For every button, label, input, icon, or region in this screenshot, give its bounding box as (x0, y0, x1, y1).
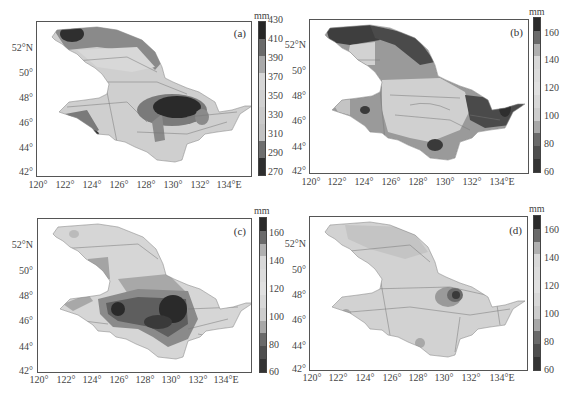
x-tick: 122° (57, 375, 76, 385)
y-tick: 42° (276, 166, 306, 176)
cbar-tick: 60 (544, 167, 554, 177)
cbar-tick: 140 (544, 253, 559, 263)
y-tick: 46° (276, 116, 306, 126)
y-tick: 48° (3, 93, 33, 103)
map-d (310, 217, 528, 371)
x-tick: 126° (110, 375, 129, 385)
y-tick: 48° (276, 290, 306, 300)
colorbar-c (259, 217, 267, 373)
x-tick: 124° (356, 373, 375, 383)
x-tick: 130° (436, 177, 455, 187)
x-tick: 134°E (213, 375, 238, 385)
x-tick: 124° (355, 177, 374, 187)
map-frame-c: (c) (37, 218, 252, 373)
panel-label: (d) (509, 224, 522, 236)
x-tick: 128° (409, 177, 428, 187)
x-tick: 120° (302, 177, 321, 187)
cbar-tick: 120 (544, 83, 559, 93)
y-tick: 48° (3, 291, 33, 301)
x-tick: 134°E (489, 177, 514, 187)
x-tick: 130° (164, 180, 183, 190)
cbar-tick: 160 (269, 228, 284, 238)
x-tick: 132° (462, 373, 481, 383)
y-tick: 48° (276, 91, 306, 101)
cbar-tick: 100 (544, 309, 559, 319)
x-tick: 130° (435, 373, 454, 383)
x-tick: 126° (382, 177, 401, 187)
y-tick: 52°N (276, 239, 306, 249)
y-tick: 50° (276, 66, 306, 76)
x-tick: 132° (189, 375, 208, 385)
cbar-tick: 80 (544, 337, 554, 347)
x-tick: 128° (136, 375, 155, 385)
y-tick: 44° (276, 142, 306, 152)
map-c (38, 219, 252, 373)
colorbar-a (258, 21, 266, 176)
y-tick: 44° (3, 143, 33, 153)
x-tick: 132° (463, 177, 482, 187)
colorbar-unit: mm (529, 6, 545, 17)
cbar-tick: 60 (544, 365, 554, 375)
y-tick: 44° (276, 341, 306, 351)
x-tick: 126° (110, 180, 129, 190)
y-tick: 44° (3, 342, 33, 352)
y-tick: 42° (3, 366, 33, 376)
map-a (37, 22, 252, 177)
x-tick: 130° (162, 375, 181, 385)
y-tick: 46° (3, 316, 33, 326)
y-tick: 42° (276, 364, 306, 374)
x-tick: 120° (29, 180, 48, 190)
cbar-tick: 160 (544, 225, 559, 235)
cbar-tick: 310 (268, 129, 283, 139)
cbar-tick: 140 (544, 55, 559, 65)
map-b (310, 20, 529, 174)
cbar-tick: 80 (544, 139, 554, 149)
y-tick: 46° (276, 315, 306, 325)
x-tick: 120° (30, 375, 49, 385)
y-tick: 42° (3, 167, 33, 177)
y-tick: 50° (3, 266, 33, 276)
x-tick: 124° (83, 180, 102, 190)
cbar-tick: 160 (544, 28, 559, 38)
map-frame-b: (b) (309, 19, 529, 174)
panel-label: (b) (510, 26, 523, 38)
x-tick: 122° (56, 180, 75, 190)
y-tick: 52°N (3, 43, 33, 53)
colorbar-b (533, 17, 541, 173)
y-tick: 50° (276, 265, 306, 275)
x-tick: 124° (83, 375, 102, 385)
y-tick: 46° (3, 118, 33, 128)
map-frame-d: (d) (309, 216, 528, 371)
x-tick: 122° (328, 177, 347, 187)
x-tick: 128° (409, 373, 428, 383)
cbar-tick: 120 (544, 281, 559, 291)
map-frame-a: (a) (36, 21, 252, 177)
colorbar-d (533, 215, 541, 371)
panel-label: (a) (234, 27, 246, 39)
y-tick: 50° (3, 68, 33, 78)
x-tick: 128° (137, 180, 156, 190)
x-tick: 120° (303, 373, 322, 383)
cbar-tick: 390 (268, 53, 283, 63)
cbar-tick: 430 (268, 15, 283, 25)
x-tick: 132° (191, 180, 210, 190)
x-tick: 126° (383, 373, 402, 383)
cbar-tick: 100 (544, 111, 559, 121)
x-tick: 122° (329, 373, 348, 383)
y-tick: 52°N (3, 240, 33, 250)
y-tick: 52°N (276, 40, 306, 50)
x-tick: 134°E (216, 180, 241, 190)
colorbar-unit: mm (529, 203, 545, 214)
colorbar-unit: mm (254, 205, 270, 216)
panel-label: (c) (234, 225, 246, 237)
x-tick: 134°E (489, 373, 514, 383)
